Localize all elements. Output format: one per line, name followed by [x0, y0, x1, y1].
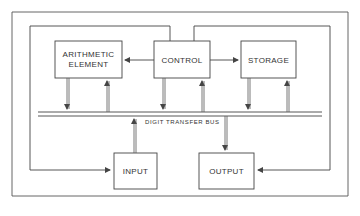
- input-to-bus-arrow: [134, 119, 136, 153]
- arithmetic-label-1: ARITHMETIC: [63, 50, 115, 59]
- bus-to-arithmetic-arrow: [107, 81, 109, 112]
- output-label: OUTPUT: [209, 167, 244, 176]
- input-label: INPUT: [123, 167, 149, 176]
- block-diagram: ARITHMETIC ELEMENT CONTROL STORAGE INPUT…: [0, 0, 360, 216]
- control-block: CONTROL: [154, 41, 210, 78]
- input-block: INPUT: [114, 153, 157, 189]
- bus-to-control-arrow: [202, 81, 204, 112]
- storage-label: STORAGE: [248, 56, 289, 65]
- outer-control-line: [12, 12, 348, 196]
- storage-block: STORAGE: [241, 41, 296, 78]
- outer-frame: [12, 12, 348, 196]
- digit-transfer-bus: [38, 112, 322, 116]
- bus-to-storage-arrow: [287, 81, 289, 112]
- storage-to-bus-arrow: [248, 78, 250, 109]
- control-to-bus-arrow: [163, 78, 165, 109]
- bus-to-output-arrow: [225, 116, 227, 150]
- arithmetic-to-bus-arrow: [67, 78, 69, 109]
- arithmetic-label-2: ELEMENT: [69, 60, 109, 69]
- output-block: OUTPUT: [199, 153, 254, 189]
- bus-label: DIGIT TRANSFER BUS: [145, 119, 220, 125]
- arithmetic-element-block: ARITHMETIC ELEMENT: [55, 41, 122, 78]
- control-label: CONTROL: [161, 56, 202, 65]
